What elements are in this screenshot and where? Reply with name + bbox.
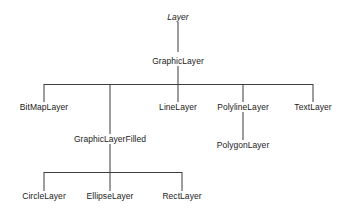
- edge-layer-to-graphiclayer: [178, 22, 179, 52]
- edge-bus-to-ellipselayer: [110, 172, 111, 191]
- node-graphic-layer: GraphicLayer: [152, 56, 204, 66]
- edge-graphiclayerfilled-to-bus: [110, 144, 111, 172]
- edge-graphiclayer-to-bus: [178, 66, 179, 84]
- bus-graphiclayerfilled-children: [44, 172, 182, 173]
- node-bitmap-layer: BitMapLayer: [20, 102, 68, 112]
- class-hierarchy-diagram: Layer GraphicLayer BitMapLayer LineLayer…: [0, 0, 342, 214]
- edge-bus-to-graphiclayerfilled: [110, 84, 111, 134]
- node-polygon-layer: PolygonLayer: [217, 140, 270, 150]
- node-line-layer: LineLayer: [159, 102, 197, 112]
- node-ellipse-layer: EllipseLayer: [87, 191, 134, 201]
- edge-polylinelayer-to-polygonlayer: [243, 112, 244, 140]
- node-rect-layer: RectLayer: [162, 191, 201, 201]
- node-text-layer: TextLayer: [294, 102, 331, 112]
- edge-bus-to-textlayer: [313, 84, 314, 102]
- node-polyline-layer: PolylineLayer: [217, 102, 269, 112]
- edge-bus-to-polylinelayer: [243, 84, 244, 102]
- node-circle-layer: CircleLayer: [22, 191, 66, 201]
- edge-bus-to-circlelayer: [44, 172, 45, 191]
- edge-bus-to-bitmaplayer: [44, 84, 45, 102]
- node-graphic-layer-filled: GraphicLayerFilled: [74, 134, 146, 144]
- edge-bus-to-linelayer: [178, 84, 179, 102]
- bus-graphiclayer-children: [44, 84, 313, 85]
- edge-bus-to-rectlayer: [182, 172, 183, 191]
- node-layer: Layer: [167, 12, 189, 22]
